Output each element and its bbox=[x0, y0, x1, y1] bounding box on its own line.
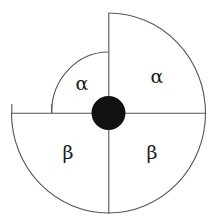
sector-lower-left-fill bbox=[12, 113, 109, 213]
sector-lower-right-fill bbox=[109, 113, 206, 213]
sector-label-upper-left: α bbox=[76, 72, 89, 94]
sector-label-upper-right: α bbox=[151, 65, 164, 87]
center-hub bbox=[92, 96, 126, 130]
sector-label-lower-left: β bbox=[63, 141, 74, 163]
quadrant-diagram-svg: α α β β bbox=[0, 0, 218, 222]
sector-upper-right-fill bbox=[109, 13, 206, 113]
diagram-canvas: α α β β bbox=[0, 0, 218, 222]
sector-upper-left-fill bbox=[12, 52, 109, 113]
sector-label-lower-right: β bbox=[147, 141, 158, 163]
